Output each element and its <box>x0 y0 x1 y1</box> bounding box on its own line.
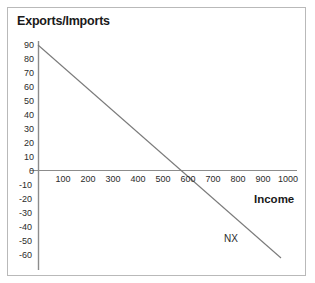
y-tick-label: 10 <box>8 152 34 162</box>
y-tick-label: 30 <box>8 124 34 134</box>
chart-screenshot: Exports/Imports 90 80 70 60 50 40 30 20 … <box>0 0 315 283</box>
y-tick-label: -20 <box>6 194 32 204</box>
chart-plot-area <box>0 0 315 283</box>
y-tick-label: 60 <box>8 82 34 92</box>
x-tick-label: 1000 <box>273 174 303 184</box>
y-tick-label: -60 <box>6 250 32 260</box>
y-tick-label: -50 <box>6 236 32 246</box>
y-tick-label: 80 <box>8 54 34 64</box>
y-tick-label: 20 <box>8 138 34 148</box>
y-tick-label: 50 <box>8 96 34 106</box>
axis-title-income: Income <box>254 193 294 205</box>
y-tick-label: 0 <box>8 166 34 176</box>
y-tick-label: 70 <box>8 68 34 78</box>
y-tick-label: -10 <box>6 180 32 190</box>
series-label-nx: NX <box>224 233 238 244</box>
y-tick-label: 90 <box>8 40 34 50</box>
y-tick-label: 40 <box>8 110 34 120</box>
y-tick-label: -40 <box>6 222 32 232</box>
series-line-nx <box>38 45 281 258</box>
y-tick-label: -30 <box>6 208 32 218</box>
